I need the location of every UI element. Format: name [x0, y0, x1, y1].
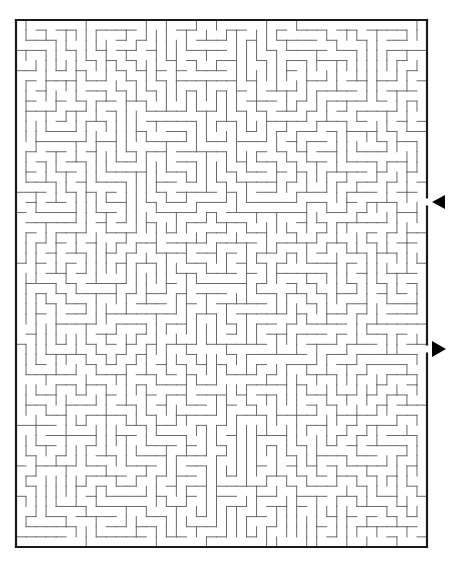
entry-arrow-icon	[432, 195, 445, 209]
maze-puzzle	[0, 0, 463, 570]
maze-grid	[0, 0, 463, 570]
maze-walls	[16, 20, 427, 547]
exit-arrow-icon	[432, 341, 446, 357]
